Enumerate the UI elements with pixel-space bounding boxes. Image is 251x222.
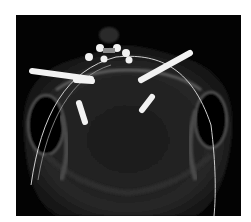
abutment [96, 44, 104, 52]
ct-rendering [16, 15, 241, 216]
abutment [122, 49, 130, 57]
abutment [126, 57, 133, 64]
ct-scan-image [16, 15, 241, 216]
abutment [85, 53, 93, 61]
right-orbit [195, 92, 227, 148]
abutment [101, 56, 108, 63]
